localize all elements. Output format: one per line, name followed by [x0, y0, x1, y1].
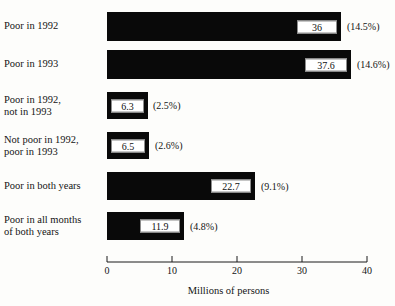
- x-axis-title: Millions of persons: [0, 285, 395, 296]
- chart-row: Poor in 1992, not in 1993 6.3 (2.5%): [0, 92, 395, 119]
- bar-percent-label: (2.6%): [155, 140, 183, 151]
- bar-value-box: 36: [297, 20, 337, 33]
- row-label: Poor in 1993: [4, 58, 104, 70]
- chart-row: Not poor in 1992, poor in 1993 6.5 (2.6%…: [0, 132, 395, 159]
- row-label: Poor in 1992, not in 1993: [4, 94, 104, 117]
- chart-row: Poor in 1992 36 (14.5%): [0, 12, 395, 41]
- chart-row: Poor in 1993 37.6 (14.6%): [0, 50, 395, 79]
- bar-value-box: 37.6: [305, 58, 347, 71]
- bar-percent-label: (9.1%): [261, 181, 289, 192]
- x-tick-label-30: 30: [290, 265, 314, 276]
- row-label: Poor in 1992: [4, 20, 104, 32]
- bar-container: 6.5: [107, 132, 149, 159]
- bar-container: 6.3: [107, 92, 148, 119]
- bar-percent-label: (4.8%): [190, 221, 218, 232]
- bar-container: 11.9: [107, 212, 184, 240]
- row-label: Poor in both years: [4, 180, 104, 192]
- bar-container: 36: [107, 12, 341, 41]
- bar-percent-label: (2.5%): [153, 100, 181, 111]
- bar-chart: Poor in 1992 36 (14.5%) Poor in 1993 37.…: [0, 0, 395, 306]
- chart-row: Poor in both years 22.7 (9.1%): [0, 172, 395, 200]
- row-label: Not poor in 1992, poor in 1993: [4, 134, 104, 157]
- x-tick-label-40: 40: [355, 265, 379, 276]
- x-axis-title-text: Millions of persons: [126, 285, 270, 296]
- chart-row: Poor in all months of both years 11.9 (4…: [0, 212, 395, 240]
- bar-value-box: 11.9: [140, 220, 180, 233]
- bar-value-box: 6.5: [111, 139, 145, 152]
- bar-container: 22.7: [107, 172, 255, 200]
- bar-percent-label: (14.5%): [347, 21, 380, 32]
- x-tick-label-20: 20: [225, 265, 249, 276]
- bar-percent-label: (14.6%): [357, 59, 390, 70]
- bar-value-box: 6.3: [111, 99, 144, 112]
- bar-value-box: 22.7: [211, 180, 251, 193]
- x-tick-label-10: 10: [160, 265, 184, 276]
- bar-container: 37.6: [107, 50, 351, 79]
- x-tick-label-0: 0: [95, 265, 119, 276]
- row-label: Poor in all months of both years: [4, 214, 104, 237]
